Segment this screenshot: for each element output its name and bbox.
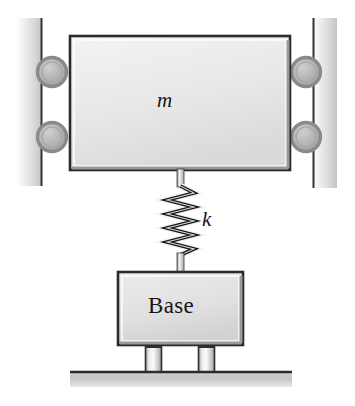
- roller-bearing-right-upper: [292, 58, 321, 87]
- roller-bearing-right-lower: [292, 123, 321, 152]
- spring-element: [167, 186, 194, 255]
- support-leg-right: [198, 346, 215, 372]
- ground-surface: [70, 372, 292, 387]
- mechanical-diagram: m k Base: [0, 0, 355, 406]
- guide-rail-left: [18, 18, 42, 186]
- base-label: Base: [148, 293, 194, 319]
- mass-block: [70, 36, 290, 170]
- support-leg-left: [145, 346, 162, 372]
- diagram-canvas: [0, 0, 355, 406]
- mass-label: m: [157, 88, 172, 113]
- spring-stiffness-label: k: [202, 207, 211, 232]
- roller-bearing-left-upper: [38, 58, 67, 87]
- guide-rail-right: [313, 18, 337, 188]
- roller-bearing-left-lower: [38, 123, 67, 152]
